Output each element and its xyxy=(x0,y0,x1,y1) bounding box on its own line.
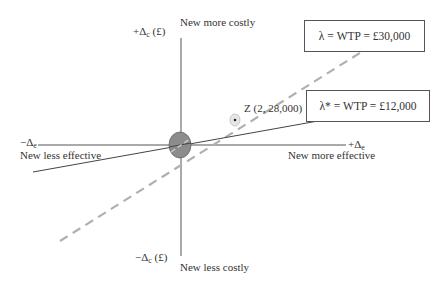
threshold-box-12000: λ* = WTP = £12,000 xyxy=(306,90,430,122)
threshold-line-30000 xyxy=(60,51,363,241)
y-negative-caption: New less costly xyxy=(180,262,249,273)
y-positive-symbol: +Δc (£) xyxy=(133,26,165,39)
threshold-box-30000: λ = WTP = £30,000 xyxy=(304,20,425,52)
y-negative-symbol: −Δc (£) xyxy=(135,252,167,265)
point-z-label: Z (2, 28,000) xyxy=(244,103,302,114)
x-negative-caption: New less effective xyxy=(20,150,101,161)
y-positive-caption: New more costly xyxy=(180,17,255,28)
x-positive-caption: New more effective xyxy=(288,150,375,161)
